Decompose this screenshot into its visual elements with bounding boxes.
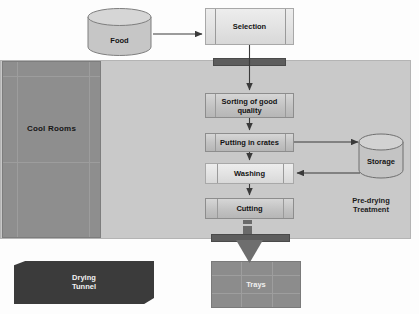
pre-drying-treatment-label: Pre-drying Treatment <box>335 196 407 214</box>
cool-rooms-gridline <box>3 162 100 163</box>
sorting-label-line2: quality <box>237 106 261 115</box>
storage-cylinder-icon <box>358 133 404 179</box>
process-flow-diagram: Cool Rooms Pre-drying Treatment Food Sto… <box>0 0 419 314</box>
conveyor-nub-upper <box>243 220 252 224</box>
pre-drying-label-line1: Pre-drying <box>335 196 407 205</box>
node-food[interactable]: Food <box>87 8 152 56</box>
trays-gridline <box>212 293 300 294</box>
drying-tunnel-label-line2: Tunnel <box>72 282 96 291</box>
conveyor-bar-top <box>213 58 286 66</box>
sorting-label-line1: Sorting of good <box>222 97 278 106</box>
pre-drying-label-line2: Treatment <box>335 205 407 214</box>
putting-in-crates-label: Putting in crates <box>220 138 279 147</box>
cool-rooms-label: Cool Rooms <box>3 124 100 133</box>
drying-tunnel-label: Drying Tunnel <box>14 273 154 291</box>
food-label: Food <box>87 36 152 45</box>
trays-label: Trays <box>212 280 300 289</box>
edge-cutting-to-trays-wedge <box>236 240 263 263</box>
cutting-label: Cutting <box>236 204 262 213</box>
selection-label: Selection <box>233 22 266 31</box>
node-cutting[interactable]: Cutting <box>205 198 294 219</box>
node-putting-in-crates[interactable]: Putting in crates <box>205 133 294 152</box>
food-cylinder-icon <box>87 8 152 56</box>
storage-label: Storage <box>358 157 404 166</box>
sorting-label: Sorting of good quality <box>222 97 278 115</box>
node-trays[interactable]: Trays <box>211 261 301 308</box>
washing-label: Washing <box>234 169 265 178</box>
node-drying-tunnel[interactable]: Drying Tunnel <box>14 261 154 304</box>
node-storage[interactable]: Storage <box>358 133 404 179</box>
cool-rooms-gridline <box>3 76 100 77</box>
cool-rooms-gridline <box>89 62 90 237</box>
node-selection[interactable]: Selection <box>205 8 294 45</box>
zone-cool-rooms: Cool Rooms <box>2 61 101 238</box>
conveyor-bar-bottom <box>211 234 290 242</box>
node-washing[interactable]: Washing <box>205 163 294 184</box>
cool-rooms-gridline <box>17 62 18 237</box>
trays-gridline <box>212 275 300 276</box>
node-sorting-of-good-quality[interactable]: Sorting of good quality <box>205 93 294 118</box>
drying-tunnel-label-line1: Drying <box>72 273 96 282</box>
